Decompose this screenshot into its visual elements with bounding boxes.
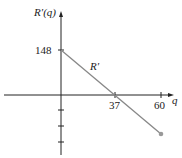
- line-label: R′: [89, 60, 100, 72]
- line-r-prime: [61, 50, 161, 134]
- chart: R′(q) q 148 37 60 R′: [0, 0, 182, 158]
- x-axis-label: q: [172, 94, 178, 106]
- y-axis-label: R′(q): [33, 6, 56, 19]
- endpoint-marker: [159, 132, 164, 137]
- y-axis-arrow-icon: [59, 11, 63, 17]
- x-tick-label-37: 37: [109, 99, 121, 111]
- x-tick-label-60: 60: [154, 99, 166, 111]
- y-tick-label-148: 148: [35, 44, 52, 56]
